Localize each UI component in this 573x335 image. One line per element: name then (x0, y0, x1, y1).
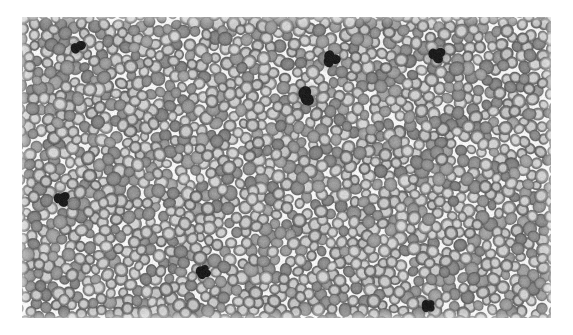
blood-smear-micrograph (22, 17, 551, 318)
micrograph-canvas (22, 17, 551, 318)
screenshot-canvas (0, 0, 573, 335)
